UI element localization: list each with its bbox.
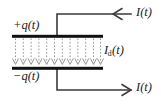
- field-line: [75, 39, 81, 65]
- field-line: [67, 39, 73, 65]
- upper-plate: [12, 35, 103, 38]
- field-line: [59, 39, 65, 65]
- current-label-bottom: I(t): [136, 81, 152, 94]
- capacitor-displacement-current-figure: +q(t) −q(t) Id(t) I(t) I(t): [0, 0, 161, 104]
- field-line: [28, 39, 34, 65]
- upper-plate-charge-label: +q(t): [13, 19, 39, 32]
- field-line: [83, 39, 89, 65]
- field-line: [13, 39, 19, 65]
- displacement-current-argument: (t): [112, 43, 124, 57]
- field-line: [20, 39, 26, 65]
- top-lead-wire: [57, 14, 131, 36]
- bottom-lead-wire: [57, 68, 131, 90]
- field-line: [36, 39, 42, 65]
- displacement-current-subscript: d: [108, 49, 112, 58]
- field-line: [98, 39, 104, 65]
- field-line: [91, 39, 97, 65]
- field-line: [44, 39, 50, 65]
- lower-plate-charge-label: −q(t): [13, 70, 39, 83]
- displacement-field-lines: [13, 39, 104, 65]
- current-label-top: I(t): [136, 6, 152, 19]
- displacement-current-label: Id(t): [104, 44, 124, 57]
- field-line: [52, 39, 58, 65]
